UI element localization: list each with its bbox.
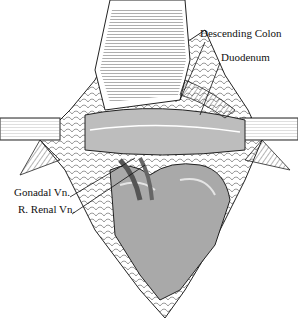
kidney-region xyxy=(110,164,230,300)
surgical-illustration xyxy=(0,0,298,326)
label-gonadal-vein: Gonadal Vn. xyxy=(14,186,70,198)
label-duodenum: Duodenum xyxy=(221,51,270,63)
label-right-renal-vein: R. Renal Vn. xyxy=(18,203,75,215)
label-descending-colon: Descending Colon xyxy=(200,27,282,39)
retracted-bowel xyxy=(95,0,190,110)
